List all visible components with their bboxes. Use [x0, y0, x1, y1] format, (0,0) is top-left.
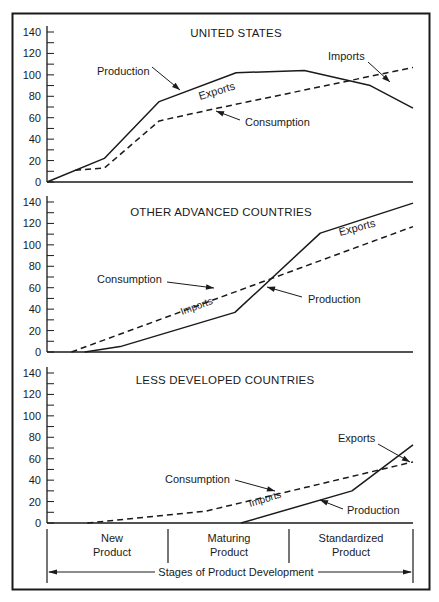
- annotation-consumption: Consumption: [245, 116, 310, 128]
- y-tick-label: 120: [23, 388, 41, 400]
- annotation-imports: Imports: [247, 489, 282, 509]
- panel-title: UNITED STATES: [190, 27, 282, 39]
- y-tick-label: 80: [29, 260, 41, 272]
- annotation-exports: Exports: [337, 217, 377, 238]
- panel-less-developed-countries: 020406080100120140LESS DEVELOPED COUNTRI…: [23, 367, 413, 529]
- annotation-production: Production: [97, 65, 150, 77]
- product-life-cycle-figure: 020406080100120140UNITED STATESProductio…: [0, 0, 439, 602]
- panel-title: LESS DEVELOPED COUNTRIES: [136, 374, 315, 386]
- arrowhead-icon: [206, 284, 214, 290]
- y-tick-label: 0: [35, 346, 41, 358]
- y-tick-label: 140: [23, 26, 41, 38]
- y-tick-label: 40: [29, 133, 41, 145]
- stage-axis: New Product Maturing Product Standardize…: [47, 529, 413, 583]
- arrow-right-icon: [403, 570, 412, 575]
- y-tick-label: 60: [29, 282, 41, 294]
- y-tick-label: 0: [35, 176, 41, 188]
- y-tick-label: 100: [23, 69, 41, 81]
- stage-label-maturing-line1: Maturing: [208, 532, 251, 544]
- annotation-imports: Imports: [179, 295, 214, 317]
- y-tick-label: 20: [29, 496, 41, 508]
- y-tick-label: 120: [23, 47, 41, 59]
- y-tick-label: 100: [23, 239, 41, 251]
- annotation-imports: Imports: [328, 50, 365, 62]
- panel-other-advanced-countries: 020406080100120140OTHER ADVANCED COUNTRI…: [23, 196, 413, 358]
- y-tick-label: 80: [29, 90, 41, 102]
- arrow-left-icon: [48, 570, 57, 575]
- stage-label-maturing-line2: Product: [210, 546, 248, 558]
- y-tick-label: 40: [29, 474, 41, 486]
- annotation-consumption: Consumption: [97, 273, 162, 285]
- annotation-production: Production: [347, 504, 400, 516]
- stage-label-new-line2: Product: [93, 546, 131, 558]
- stage-label-new-line1: New: [101, 532, 123, 544]
- panel-united-states: 020406080100120140UNITED STATESProductio…: [23, 26, 413, 188]
- y-tick-label: 80: [29, 431, 41, 443]
- y-tick-label: 20: [29, 325, 41, 337]
- arrowhead-icon: [402, 456, 410, 462]
- y-tick-label: 40: [29, 303, 41, 315]
- annotation-exports: Exports: [197, 79, 237, 102]
- y-tick-label: 140: [23, 367, 41, 379]
- x-axis-title: Stages of Product Development: [158, 566, 313, 578]
- y-tick-label: 60: [29, 453, 41, 465]
- arrowhead-icon: [216, 111, 224, 116]
- chart-panels: 020406080100120140UNITED STATESProductio…: [23, 26, 413, 529]
- y-tick-label: 20: [29, 155, 41, 167]
- stage-label-standardized-line2: Product: [332, 546, 370, 558]
- y-tick-label: 60: [29, 112, 41, 124]
- annotation-exports: Exports: [338, 432, 376, 444]
- arrowhead-icon: [320, 500, 328, 506]
- y-tick-label: 120: [23, 217, 41, 229]
- arrowhead-icon: [267, 287, 275, 292]
- series-consumption-line: [71, 227, 413, 352]
- y-tick-label: 0: [35, 517, 41, 529]
- stage-label-standardized-line1: Standardized: [319, 532, 384, 544]
- annotation-consumption: Consumption: [165, 473, 230, 485]
- y-tick-label: 100: [23, 410, 41, 422]
- y-tick-label: 140: [23, 196, 41, 208]
- panel-title: OTHER ADVANCED COUNTRIES: [130, 206, 312, 218]
- annotation-production: Production: [308, 293, 361, 305]
